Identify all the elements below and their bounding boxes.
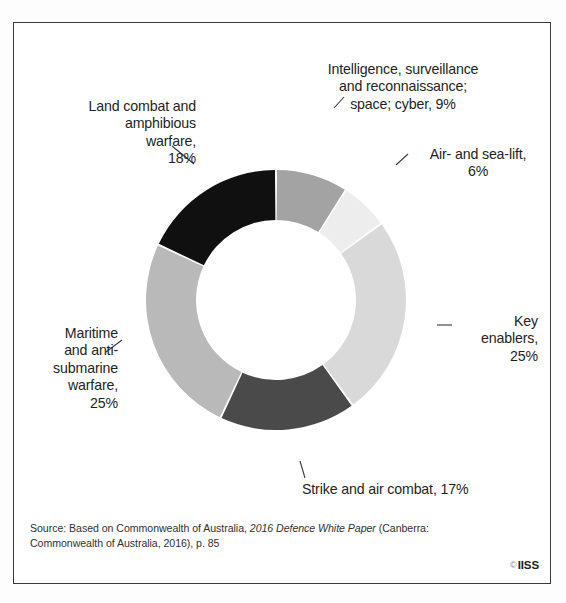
copyright-holder: IISS [518, 559, 539, 571]
slice-label-land-combat: Land combat and amphibious warfare, 18% [20, 98, 196, 168]
donut-chart: Land combat and amphibious warfare, 18% … [0, 0, 566, 603]
source-title: 2016 Defence White Paper [250, 522, 376, 534]
figure-container: Land combat and amphibious warfare, 18% … [0, 0, 566, 603]
source-note: Source: Based on Commonwealth of Austral… [30, 521, 450, 550]
copyright-credit: ©IISS [510, 559, 539, 571]
copyright-icon: © [510, 560, 517, 570]
slice-label-maritime: Maritime and anti- submarine warfare, 25… [12, 325, 118, 412]
donut-slice [159, 170, 276, 265]
slice-label-isr: Intelligence, surveillance and reconnais… [290, 61, 516, 113]
donut-slice [324, 224, 406, 404]
slice-label-strike: Strike and air combat, 17% [302, 481, 534, 498]
donut-slice [146, 246, 241, 418]
leader-line-strike [300, 461, 305, 478]
slice-label-air-sealift: Air- and sea-lift, 6% [404, 146, 552, 181]
source-prefix: Source: Based on Commonwealth of Austral… [30, 522, 250, 534]
donut-svg [126, 150, 426, 450]
slice-label-key-enablers: Key enablers, 25% [435, 313, 538, 365]
